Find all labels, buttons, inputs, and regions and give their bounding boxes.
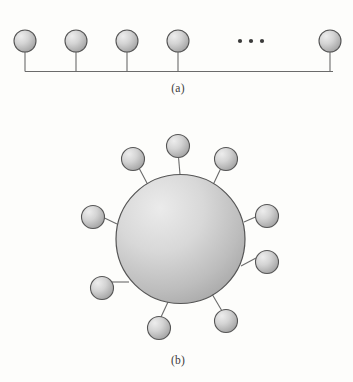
bus-node-2[interactable]: [65, 30, 87, 52]
bus-ellipsis-dot-2: [249, 39, 253, 43]
network-topology-figure: (a): [0, 0, 353, 382]
panel-a-caption: (a): [171, 82, 184, 95]
star-hub[interactable]: [116, 175, 245, 304]
star-node-5[interactable]: [82, 206, 105, 229]
star-node-3[interactable]: [122, 148, 145, 171]
star-node-7[interactable]: [91, 277, 114, 300]
bus-ellipsis-dot-1: [238, 39, 242, 43]
bus-node-1[interactable]: [14, 30, 36, 52]
bus-node-5[interactable]: [319, 30, 341, 52]
star-node-4[interactable]: [256, 205, 279, 228]
bus-node-3[interactable]: [116, 30, 138, 52]
panel-b-caption: (b): [171, 354, 185, 367]
bus-node-4[interactable]: [167, 30, 189, 52]
star-node-1[interactable]: [167, 135, 190, 158]
star-node-2[interactable]: [215, 148, 238, 171]
star-node-9[interactable]: [148, 317, 171, 340]
star-node-6[interactable]: [256, 251, 279, 274]
star-node-8[interactable]: [215, 310, 238, 333]
bus-ellipsis-dot-3: [260, 39, 264, 43]
figure-root: (a): [0, 0, 353, 382]
